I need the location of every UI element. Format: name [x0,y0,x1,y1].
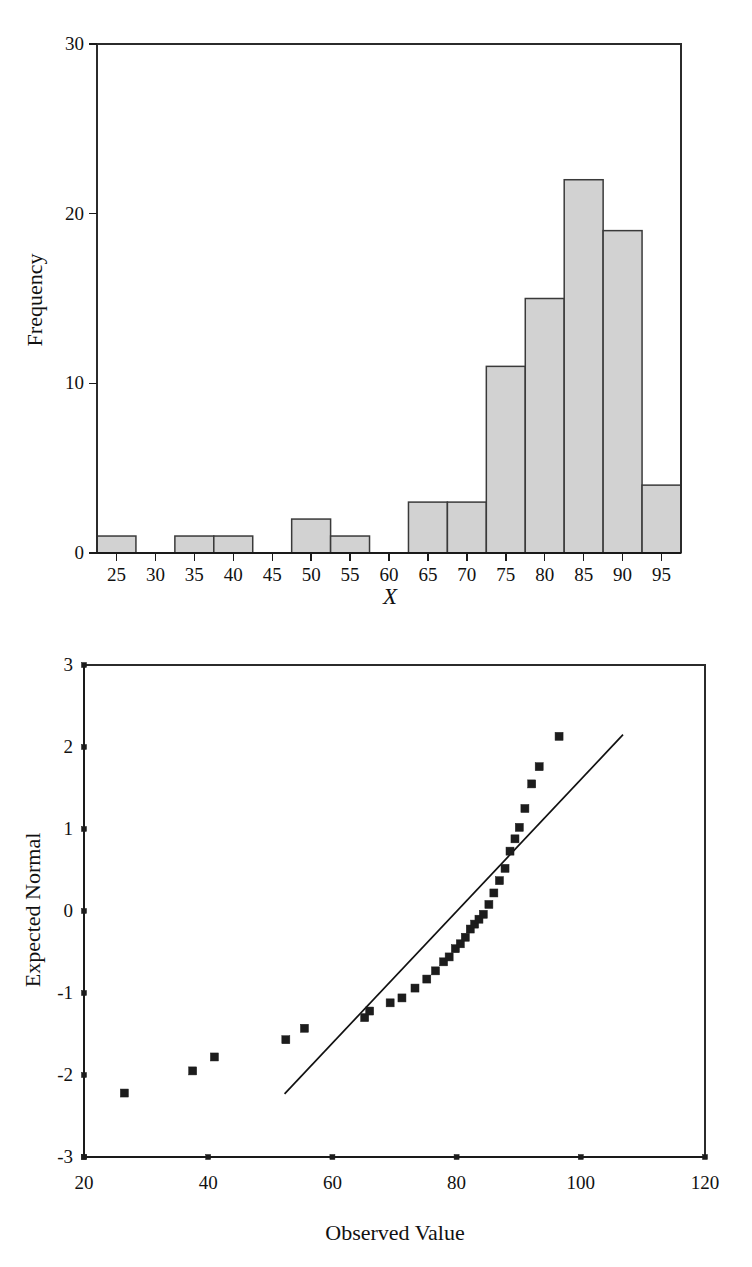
qqplot-y-tick-label: 0 [64,900,74,921]
histogram-x-tick-label: 55 [341,564,360,585]
qqplot-marker [515,823,523,831]
qqplot-marker [282,1036,290,1044]
histogram-svg: 253035404550556065707580859095 0102030 X… [0,0,752,640]
qqplot-x-tick-label: 60 [323,1172,342,1193]
histogram-bar [97,536,136,553]
histogram-x-tick-label: 95 [652,564,671,585]
histogram-bar [408,502,447,553]
qqplot-marker [501,864,509,872]
histogram-x-tick-label: 40 [224,564,243,585]
qqplot-marker [461,933,469,941]
qqplot-marker [521,805,529,813]
qqplot-marker [423,975,431,983]
qqplot-marker [555,732,563,740]
qqplot-plot-frame [84,665,705,1157]
qqplot-y-tick [82,909,87,914]
histogram-x-tick-label: 75 [496,564,515,585]
histogram-y-tick-label: 30 [65,33,84,54]
qqplot-figure: 20406080100120 -3-2-10123 Observed Value… [0,640,752,1267]
histogram-figure: 253035404550556065707580859095 0102030 X… [0,0,752,640]
histogram-bar [642,485,681,553]
qqplot-marker [120,1089,128,1097]
page-root: 253035404550556065707580859095 0102030 X… [0,0,752,1267]
qqplot-svg: 20406080100120 -3-2-10123 Observed Value… [0,640,752,1267]
histogram-bar [447,502,486,553]
qqplot-marker [366,1007,374,1015]
qqplot-y-tick [82,745,87,750]
qqplot-marker [495,877,503,885]
histogram-bar [603,231,642,553]
qqplot-y-tick [82,1073,87,1078]
histogram-x-tick-label: 80 [535,564,554,585]
histogram-x-tick-label: 85 [574,564,593,585]
qqplot-marker [506,847,514,855]
histogram-y-tick-labels: 0102030 [65,33,84,563]
qqplot-fit-line [285,735,623,1094]
qqplot-data-points [120,732,563,1097]
qqplot-reference-line [285,735,623,1094]
qqplot-x-tick [206,1155,211,1160]
qqplot-x-tick-label: 100 [567,1172,596,1193]
histogram-bars [97,180,681,553]
histogram-x-tick-label: 70 [457,564,476,585]
histogram-bar [564,180,603,553]
histogram-bar [175,536,214,553]
qqplot-marker [411,984,419,992]
histogram-x-tick-label: 25 [107,564,126,585]
qqplot-marker [479,910,487,918]
qqplot-x-tick-label: 20 [75,1172,94,1193]
qqplot-marker [485,900,493,908]
qqplot-marker [210,1053,218,1061]
qqplot-y-tick-label: -1 [57,982,73,1003]
qqplot-x-axis-title: Observed Value [325,1220,465,1245]
qqplot-x-tick-label: 40 [199,1172,218,1193]
histogram-bar [331,536,370,553]
qqplot-marker [535,763,543,771]
qqplot-x-tick-labels: 20406080100120 [75,1172,720,1193]
histogram-x-tick-label: 65 [418,564,437,585]
histogram-x-tick-label: 45 [263,564,282,585]
qqplot-y-tick-label: 1 [64,818,74,839]
qqplot-y-tick [82,663,87,668]
histogram-x-tick-label: 50 [302,564,321,585]
qqplot-marker [490,889,498,897]
histogram-bar [214,536,253,553]
qqplot-marker [386,999,394,1007]
qqplot-y-tick-label: -3 [57,1146,73,1167]
qqplot-y-tick [82,991,87,996]
histogram-y-tick-label: 0 [75,542,85,563]
qqplot-y-tick-label: -2 [57,1064,73,1085]
histogram-bar [486,366,525,553]
qqplot-x-tick [578,1155,583,1160]
qqplot-y-tick-labels: -3-2-10123 [57,654,73,1167]
qqplot-tick-marks [82,663,708,1160]
qqplot-marker [189,1067,197,1075]
qqplot-y-tick-label: 2 [64,736,74,757]
qqplot-x-tick-label: 80 [447,1172,466,1193]
qqplot-marker [511,835,519,843]
histogram-y-axis-title: Frequency [22,254,47,347]
qqplot-x-tick-label: 120 [691,1172,720,1193]
qqplot-y-tick [82,827,87,832]
qqplot-marker [528,780,536,788]
histogram-x-axis-title: X [382,584,398,609]
histogram-y-tick-label: 20 [65,203,84,224]
qqplot-frame [84,665,705,1157]
histogram-x-tick-label: 35 [185,564,204,585]
histogram-bar [292,519,331,553]
qqplot-y-tick-label: 3 [64,654,74,675]
histogram-y-tick-label: 10 [65,372,84,393]
qqplot-marker [300,1024,308,1032]
histogram-x-tick-label: 90 [613,564,632,585]
qqplot-x-tick [330,1155,335,1160]
qqplot-marker [445,953,453,961]
qqplot-x-tick [703,1155,708,1160]
qqplot-y-tick [82,1155,87,1160]
histogram-bar [525,299,564,554]
histogram-x-tick-labels: 253035404550556065707580859095 [107,564,671,585]
qqplot-marker [431,967,439,975]
qqplot-y-axis-title: Expected Normal [20,833,45,988]
histogram-x-tick-label: 60 [380,564,399,585]
qqplot-x-tick [454,1155,459,1160]
qqplot-marker [398,994,406,1002]
